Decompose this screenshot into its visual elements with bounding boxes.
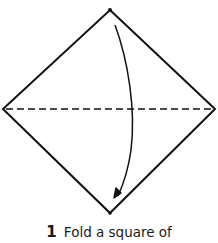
fold-arrow-icon [114, 25, 133, 198]
step-instruction: Fold a square of [64, 224, 172, 240]
step-caption: 1 Fold a square of [0, 223, 218, 241]
bottom-corner-dot [108, 211, 112, 215]
fold-diagram [0, 0, 218, 220]
top-corner-dot [108, 8, 112, 12]
step-number: 1 [46, 223, 56, 241]
paper-square-outline [3, 10, 215, 213]
